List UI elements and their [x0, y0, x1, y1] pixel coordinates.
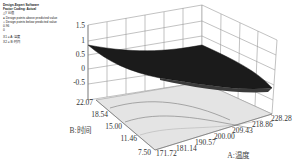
- a-tick: 190.57: [195, 138, 216, 147]
- z-tick: 1: [81, 36, 85, 45]
- a-tick: 228.28: [271, 114, 292, 123]
- a-axis-label: A:温度: [227, 150, 250, 160]
- b-axis-label: B:时间: [69, 125, 90, 135]
- b-tick: 15.00: [105, 122, 122, 131]
- z-axis: 1.5 1 0.5 0 -0.5: [73, 21, 88, 100]
- b-tick: 7.50: [138, 148, 151, 157]
- z-tick: -0.5: [73, 78, 85, 87]
- b-tick: 18.54: [91, 110, 108, 119]
- z-tick: 0: [81, 64, 85, 73]
- a-tick: 171.72: [156, 149, 177, 158]
- a-tick: 209.43: [232, 126, 253, 135]
- b-tick: 22.07: [76, 98, 93, 107]
- z-tick: 1.5: [76, 21, 86, 30]
- a-tick: 218.86: [252, 120, 273, 129]
- surface-plot: 1.5 1 0.5 0 -0.5 22.07 18.54 15.00 11.46…: [0, 0, 297, 166]
- a-tick: 181.14: [176, 144, 197, 153]
- z-tick: 0.5: [76, 50, 86, 59]
- b-tick: 11.46: [120, 134, 137, 143]
